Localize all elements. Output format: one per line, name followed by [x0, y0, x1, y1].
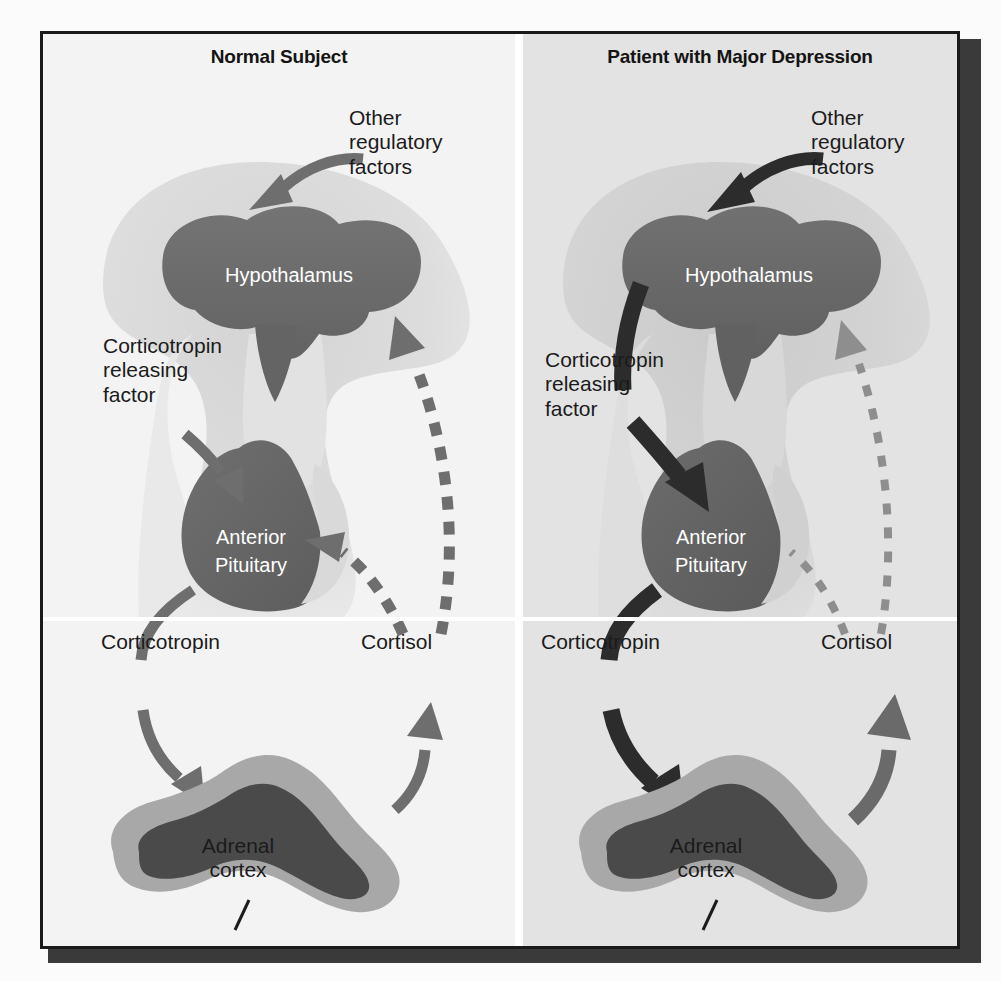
label-corticotropin-left: Corticotropin	[101, 630, 301, 654]
panel-title-major-depression: Patient with Major Depression	[523, 46, 957, 68]
panel-normal-subject: Hypothalamus Anterior Pituitary	[43, 34, 515, 946]
arrow-cortisol	[395, 702, 443, 810]
adrenal-cortex-leader-line	[703, 900, 717, 930]
hpa-axis-figure: Hypothalamus Anterior Pituitary	[0, 0, 1001, 981]
panel-major-depression: Hypothalamus Anterior Pituitary	[523, 34, 957, 946]
hypothalamus-organ-label: Hypothalamus	[685, 264, 813, 286]
arrow-cortisol	[853, 694, 911, 820]
panel-gutter	[515, 34, 523, 946]
label-cortisol-left: Cortisol	[361, 630, 491, 654]
hypothalamus-organ-label: Hypothalamus	[225, 264, 353, 286]
figure-drop-shadow-right	[959, 39, 981, 963]
label-cortisol-right: Cortisol	[821, 630, 951, 654]
arrow-corticotropin	[141, 590, 205, 806]
label-other-regulatory-factors-left: Other regulatory factors	[349, 106, 499, 179]
anterior-pituitary-label-line2: Pituitary	[675, 554, 747, 576]
label-corticotropin-releasing-factor-right: Corticotropin releasing factor	[545, 348, 745, 421]
anterior-pituitary-label-line1: Anterior	[216, 526, 286, 548]
horizontal-section-divider	[43, 617, 957, 621]
panel-title-normal-subject: Normal Subject	[43, 46, 515, 68]
adrenal-cortex-leader-line	[235, 900, 249, 930]
label-adrenal-cortex-right: Adrenal cortex	[621, 834, 791, 883]
figure-drop-shadow-bottom	[48, 947, 981, 963]
figure-frame: Hypothalamus Anterior Pituitary	[40, 31, 960, 949]
label-corticotropin-right: Corticotropin	[541, 630, 741, 654]
label-other-regulatory-factors-right: Other regulatory factors	[811, 106, 957, 179]
label-corticotropin-releasing-factor-left: Corticotropin releasing factor	[103, 334, 293, 407]
label-adrenal-cortex-left: Adrenal cortex	[153, 834, 323, 883]
anterior-pituitary-label-line2: Pituitary	[215, 554, 287, 576]
anterior-pituitary-label-line1: Anterior	[676, 526, 746, 548]
